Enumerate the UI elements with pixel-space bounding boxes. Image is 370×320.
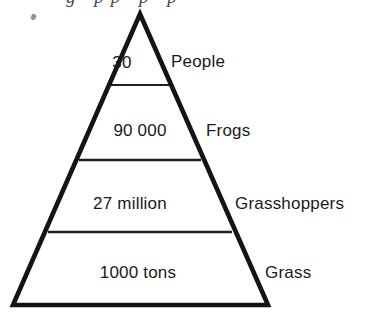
figure-canvas: g pp p p 30 90 000 27 million 1000 tons … <box>0 0 370 320</box>
tier-value-grass: 1000 tons <box>78 263 198 283</box>
tier-label-people: People <box>171 52 225 72</box>
tier-label-grass: Grass <box>265 263 311 283</box>
tier-label-frogs: Frogs <box>206 121 250 141</box>
tier-region-people <box>110 14 170 85</box>
tier-value-frogs: 90 000 <box>100 121 180 141</box>
tier-label-grasshoppers: Grasshoppers <box>235 194 344 214</box>
tier-value-people: 30 <box>102 53 142 73</box>
tier-value-grasshoppers: 27 million <box>70 194 190 214</box>
